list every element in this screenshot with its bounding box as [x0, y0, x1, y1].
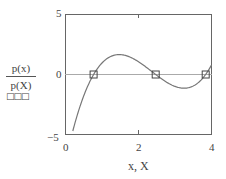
y-tick-5: 5	[56, 8, 62, 19]
curve-p-x	[73, 55, 212, 131]
x-tick-4: 4	[209, 142, 215, 153]
y-label-numerator: p(x)	[5, 62, 37, 76]
marker-legend-icon: □□□	[5, 91, 37, 101]
y-tick-0: 0	[56, 69, 62, 80]
y-axis-label: p(x) p(X) □□□	[5, 62, 37, 101]
x-axis-label: x, X	[128, 160, 149, 172]
x-tick-2: 2	[136, 142, 142, 153]
x-tick-0: 0	[63, 142, 69, 153]
y-label-denominator: p(X)	[5, 77, 37, 91]
y-tick-neg5: −5	[47, 132, 59, 143]
